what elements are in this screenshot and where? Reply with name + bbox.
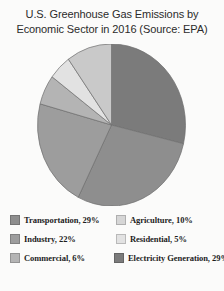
chart-title-line-2: Economic Sector in 2016 (Source: EPA) [0,22,224,37]
legend-swatch-icon [10,253,20,263]
legend-swatch-icon [116,215,126,225]
legend-row: Industry, 22% Residential, 5% [6,229,218,248]
legend-item-label: Transportation, 29% [24,215,99,225]
legend-item-residential: Residential, 5% [112,234,218,244]
legend-row: Transportation, 29% Agriculture, 10% [6,210,218,229]
pie-slices [37,44,185,206]
pie-svg [37,44,186,206]
chart-title-line-1: U.S. Greenhouse Gas Emissions by [0,7,224,22]
legend-item-electricity-generation: Electricity Generation, 29% [110,253,218,263]
legend-swatch-icon [116,234,126,244]
pie-chart-figure: U.S. Greenhouse Gas Emissions by Economi… [0,0,224,291]
legend-item-transportation: Transportation, 29% [6,215,112,225]
legend-swatch-icon [10,215,20,225]
legend-row: Commercial, 6% Electricity Generation, 2… [6,248,218,267]
legend-item-label: Electricity Generation, 29% [128,253,224,263]
pie-plot-area [37,44,186,206]
legend-item-label: Industry, 22% [24,234,76,244]
chart-legend: Transportation, 29% Agriculture, 10% Ind… [0,210,224,276]
legend-item-label: Residential, 5% [130,234,187,244]
legend-item-industry: Industry, 22% [6,234,112,244]
legend-item-label: Agriculture, 10% [130,215,193,225]
legend-item-label: Commercial, 6% [24,253,85,263]
legend-item-agriculture: Agriculture, 10% [112,215,218,225]
legend-swatch-icon [10,234,20,244]
legend-item-commercial: Commercial, 6% [6,253,110,263]
chart-title: U.S. Greenhouse Gas Emissions by Economi… [0,7,224,36]
legend-swatch-icon [114,253,124,263]
